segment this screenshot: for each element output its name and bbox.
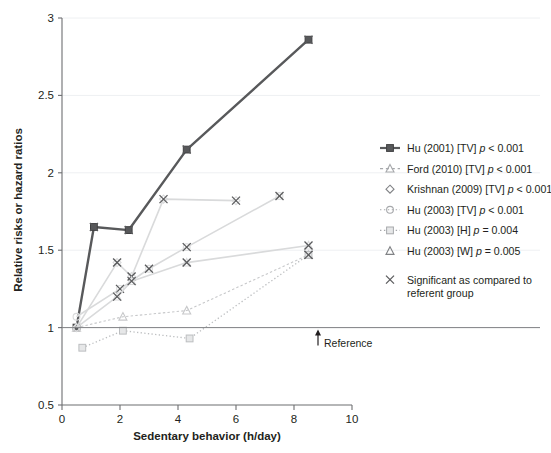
y-axis-ticks xyxy=(58,18,62,405)
legend-label: Hu (2003) [W] p = 0.005 xyxy=(407,245,520,257)
series-line xyxy=(82,255,308,348)
chart-legend: Hu (2001) [TV] p < 0.001Ford (2010) [TV]… xyxy=(380,142,551,299)
x-tick-label: 10 xyxy=(346,413,359,425)
y-tick-label: 1 xyxy=(48,322,54,334)
x-axis-ticks xyxy=(62,405,352,410)
chart-container: 0.511.522.53 0246810 Reference Relative … xyxy=(0,0,551,453)
x-tick-label: 4 xyxy=(175,413,182,425)
reference-arrow-head xyxy=(315,330,321,336)
series-line xyxy=(77,199,237,327)
legend-pvalue-rest: < 0.001 xyxy=(514,183,551,195)
x-axis-title: Sedentary behavior (h/day) xyxy=(133,430,281,442)
legend-item-2[interactable]: Krishnan (2009) [TV] p < 0.001 xyxy=(386,183,551,195)
data-point-marker xyxy=(386,185,394,193)
x-tick-label: 0 xyxy=(59,413,65,425)
reference-label: Reference xyxy=(324,337,373,349)
data-series-layer xyxy=(73,36,313,351)
series-hu2003-tv xyxy=(73,192,283,320)
significance-note-line2: referent group xyxy=(407,287,474,299)
axis-lines xyxy=(62,18,352,405)
legend-pvalue-rest: < 0.001 xyxy=(485,142,524,154)
legend-label: Ford (2010) [TV] p < 0.001 xyxy=(407,163,532,175)
series-line xyxy=(77,246,309,328)
x-tick-label: 8 xyxy=(291,413,297,425)
significance-note-line1: Significant as compared to xyxy=(407,274,532,286)
data-point-marker xyxy=(387,145,394,152)
legend-item-3[interactable]: Hu (2003) [TV] p < 0.001 xyxy=(380,204,524,216)
series-line xyxy=(77,196,280,317)
y-axis-tick-labels: 0.511.522.53 xyxy=(38,12,54,411)
data-point-marker xyxy=(120,327,127,334)
legend-label: Hu (2001) [TV] p < 0.001 xyxy=(407,142,524,154)
legend-pvalue-rest: < 0.001 xyxy=(494,163,533,175)
series-line xyxy=(77,40,309,328)
x-tick-label: 6 xyxy=(233,413,239,425)
y-tick-label: 2 xyxy=(48,167,54,179)
significance-x-icon xyxy=(145,265,153,273)
y-tick-label: 0.5 xyxy=(38,399,54,411)
y-tick-label: 1.5 xyxy=(38,244,54,256)
legend-pvalue-rest: < 0.001 xyxy=(485,204,524,216)
legend-significance-note: Significant as compared toreferent group xyxy=(386,274,532,299)
significance-x-icon xyxy=(386,276,394,284)
series-hu2003-w xyxy=(73,241,313,331)
legend-item-4[interactable]: Hu (2003) [H] p = 0.004 xyxy=(380,224,518,236)
x-axis-tick-labels: 0246810 xyxy=(59,413,359,425)
legend-label: Hu (2003) [H] p = 0.004 xyxy=(407,224,518,236)
series-hu2001-tv xyxy=(73,36,312,331)
significance-x-icon xyxy=(113,259,121,267)
y-tick-label: 2.5 xyxy=(38,89,54,101)
data-point-marker xyxy=(186,335,193,342)
legend-pvalue-rest: = 0.005 xyxy=(482,245,521,257)
series-ford2010-tv xyxy=(73,251,313,331)
legend-label: Hu (2003) [TV] p < 0.001 xyxy=(407,204,524,216)
legend-pvalue-rest: = 0.004 xyxy=(479,224,518,236)
legend-label: Krishnan (2009) [TV] p < 0.001 xyxy=(407,183,551,195)
series-line xyxy=(77,255,309,328)
x-tick-label: 2 xyxy=(117,413,123,425)
legend-item-0[interactable]: Hu (2001) [TV] p < 0.001 xyxy=(380,142,524,154)
chart-svg: 0.511.522.53 0246810 Reference Relative … xyxy=(0,0,551,453)
reference-annotation: Reference xyxy=(62,328,540,349)
legend-item-5[interactable]: Hu (2003) [W] p = 0.005 xyxy=(386,245,520,257)
data-point-marker xyxy=(79,344,86,351)
y-axis-title: Relative risks or hazard ratios xyxy=(12,128,24,292)
significance-x-icon xyxy=(276,192,284,200)
y-tick-label: 3 xyxy=(48,12,54,24)
data-point-marker xyxy=(387,227,394,234)
